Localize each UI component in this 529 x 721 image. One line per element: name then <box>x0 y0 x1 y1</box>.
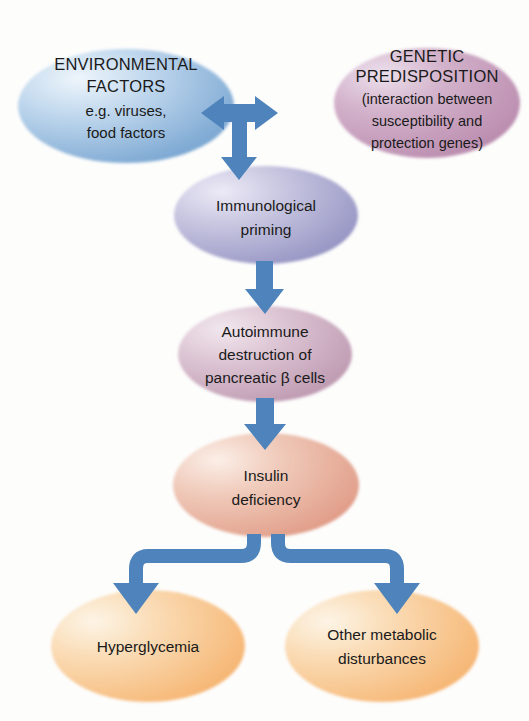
insulin-deficiency-line1: Insulin <box>244 467 289 484</box>
genetic-predisposition-line5: protection genes) <box>371 135 483 151</box>
node-environmental-factors[interactable]: ENVIRONMENTAL FACTORS e.g. viruses, food… <box>18 49 234 163</box>
insulin-deficiency-line2: deficiency <box>232 491 301 508</box>
connector-priming-to-autoimmune <box>245 261 284 314</box>
elbow-right-stroke <box>278 534 397 586</box>
environmental-factors-line3: e.g. viruses, <box>86 102 167 119</box>
immunological-priming-line1: Immunological <box>216 197 316 214</box>
hyperglycemia-line1: Hyperglycemia <box>97 638 200 655</box>
pathogenesis-flow-diagram: ENVIRONMENTAL FACTORS e.g. viruses, food… <box>0 0 529 721</box>
node-autoimmune-destruction[interactable]: Autoimmune destruction of pancreatic β c… <box>178 306 352 402</box>
node-immunological-priming[interactable]: Immunological priming <box>174 166 358 264</box>
autoimmune-destruction-line3: pancreatic β cells <box>205 369 325 386</box>
environmental-factors-line4: food factors <box>87 124 165 141</box>
node-genetic-predisposition[interactable]: GENETIC PREDISPOSITION (interaction betw… <box>334 47 520 158</box>
genetic-predisposition-line4: susceptibility and <box>372 113 482 129</box>
environmental-factors-line2: FACTORS <box>86 77 165 95</box>
genetic-predisposition-line3: (interaction between <box>362 91 493 107</box>
genetic-predisposition-line2: PREDISPOSITION <box>355 67 498 85</box>
autoimmune-destruction-line1: Autoimmune <box>221 323 308 340</box>
node-other-metabolic-disturbances[interactable]: Other metabolic disturbances <box>285 590 479 702</box>
node-hyperglycemia[interactable]: Hyperglycemia <box>51 590 245 702</box>
diagram-canvas: ENVIRONMENTAL FACTORS e.g. viruses, food… <box>0 0 529 721</box>
autoimmune-destruction-line2: destruction of <box>218 346 312 363</box>
genetic-predisposition-line1: GENETIC <box>390 47 465 65</box>
immunological-priming-ellipse <box>174 166 358 264</box>
immunological-priming-line2: priming <box>241 221 292 238</box>
other-metabolic-disturbances-ellipse <box>285 590 479 702</box>
other-metabolic-disturbances-line2: disturbances <box>338 650 426 667</box>
other-metabolic-disturbances-line1: Other metabolic <box>327 626 437 643</box>
environmental-factors-line1: ENVIRONMENTAL <box>54 55 197 73</box>
down-arrow-to-autoimmune-destruction <box>245 261 284 314</box>
